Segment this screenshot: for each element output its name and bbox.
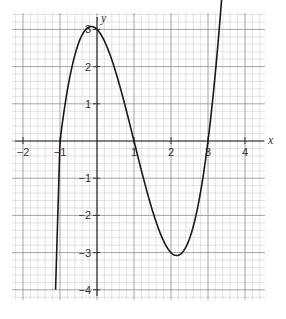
y-tick-label: 2: [85, 61, 91, 73]
x-tick-label: 4: [242, 146, 248, 158]
cubic-graph: −2−11234321−1−2−3−4 x y: [0, 0, 286, 319]
background: [0, 0, 286, 319]
y-tick-label: −4: [78, 284, 91, 296]
x-tick-label: 2: [168, 146, 174, 158]
y-tick-label: −2: [78, 209, 91, 221]
x-axis-label: x: [267, 133, 274, 147]
x-tick-label: −2: [17, 146, 30, 158]
y-tick-label: −3: [78, 247, 91, 259]
y-tick-label: 1: [85, 98, 91, 110]
y-axis-label: y: [100, 11, 107, 25]
y-tick-label: −1: [78, 172, 91, 184]
